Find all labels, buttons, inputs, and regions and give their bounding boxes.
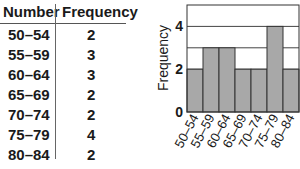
bar: [235, 69, 251, 112]
bar: [283, 69, 299, 112]
y-axis-label: Frequency: [155, 25, 171, 91]
bars: [187, 26, 299, 112]
y-tick-label: 4: [175, 18, 183, 34]
bar: [203, 48, 219, 112]
bar: [187, 69, 203, 112]
bar: [251, 69, 267, 112]
histogram: 024 50–5455–5960–6465–6970–7475–7980–84 …: [0, 0, 300, 169]
y-tick-label: 2: [175, 61, 183, 77]
y-tick-label: 0: [175, 104, 183, 120]
x-tick-labels: 50–5455–5960–6465–6970–7475–7980–84: [171, 111, 297, 150]
y-tick-labels: 024: [175, 18, 183, 120]
bar: [219, 48, 235, 112]
bar: [267, 26, 283, 112]
